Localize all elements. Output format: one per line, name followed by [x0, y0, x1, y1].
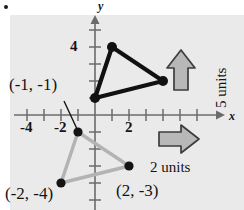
- right-arrow-icon: [159, 125, 199, 153]
- x-tick-label-2: 2: [125, 120, 133, 135]
- image-vertex-b: [158, 76, 168, 86]
- preimage-vertex-c: [56, 178, 65, 187]
- plot-canvas: [0, 0, 244, 210]
- figure-coordinate-plane: 4 -4 -2 2 x y (-1, -1) (2, -3) (-2, -4) …: [0, 0, 244, 210]
- coord-label-neg1-neg1: (-1, -1): [9, 76, 57, 93]
- y-axis-label: y: [98, 0, 103, 12]
- x-axis-label: x: [229, 110, 235, 122]
- horizontal-shift-label: 2 units: [150, 160, 190, 175]
- coord-label-2-neg3: (2, -3): [116, 182, 158, 199]
- preimage-vertex-a: [73, 127, 82, 136]
- x-tick-label-neg2: -2: [54, 120, 67, 135]
- coord-label-neg2-neg4: (-2, -4): [5, 185, 53, 202]
- up-arrow-icon: [167, 50, 195, 90]
- y-tick-label-4: 4: [70, 39, 78, 54]
- image-triangle: [90, 42, 168, 103]
- x-tick-label-neg4: -4: [20, 120, 33, 135]
- y-axis-arrowhead: [91, 15, 100, 24]
- preimage-vertex-b: [124, 161, 133, 170]
- image-vertex-a: [107, 42, 117, 52]
- x-axis-arrowhead: [216, 111, 225, 120]
- image-vertex-c: [90, 93, 100, 103]
- vertical-shift-label: 5 units: [214, 68, 229, 108]
